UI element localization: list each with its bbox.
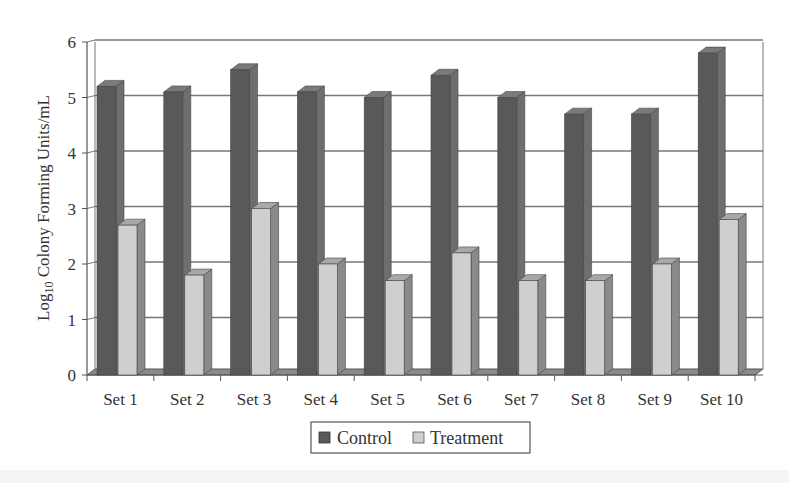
legend-swatch-treatment: [413, 432, 424, 443]
bar-control: [698, 53, 717, 375]
bar-control: [297, 92, 316, 375]
bar-control: [364, 98, 383, 376]
y-tick-label: 3: [68, 200, 77, 219]
bar-group: [498, 92, 546, 376]
bar-control: [631, 114, 650, 375]
y-axis: 0123456: [68, 33, 88, 385]
bar-control: [431, 75, 450, 375]
bar-treatment: [252, 209, 271, 376]
bar-group: [364, 92, 412, 376]
y-tick-label: 5: [68, 89, 77, 108]
bar-treatment: [385, 281, 404, 375]
bar-treatment: [318, 264, 337, 375]
bar-group: [631, 108, 679, 375]
bar-group: [431, 69, 479, 375]
bar-treatment: [519, 281, 538, 375]
bar-group: [698, 47, 746, 375]
y-tick-label: 4: [68, 144, 77, 163]
bar-group: [231, 64, 279, 375]
x-tick-label: Set 5: [370, 390, 404, 409]
bar-control: [97, 86, 116, 375]
bar-group: [164, 86, 212, 375]
x-tick-label: Set 1: [103, 390, 137, 409]
bar-control: [231, 70, 250, 375]
x-tick-label: Set 9: [638, 390, 672, 409]
x-tick-label: Set 8: [571, 390, 605, 409]
bar-treatment: [118, 225, 137, 375]
x-tick-label: Set 4: [304, 390, 339, 409]
legend-label-treatment: Treatment: [430, 428, 503, 448]
legend: Control Treatment: [311, 422, 530, 453]
bars: [97, 47, 746, 375]
bar-treatment: [452, 253, 471, 375]
y-tick-label: 6: [68, 33, 77, 52]
x-tick-label: Set 7: [504, 390, 539, 409]
x-tick-label: Set 3: [237, 390, 271, 409]
y-tick-label: 2: [68, 255, 77, 274]
bar-control: [498, 98, 517, 376]
bar-group: [97, 80, 145, 375]
x-tick-label: Set 10: [700, 390, 743, 409]
bar-control: [565, 114, 584, 375]
y-tick-label: 0: [68, 366, 77, 385]
bar-group: [565, 108, 613, 375]
bar-treatment: [185, 275, 204, 375]
bar-treatment: [586, 281, 605, 375]
x-tick-label: Set 6: [437, 390, 471, 409]
bar-treatment: [652, 264, 671, 375]
legend-swatch-control: [319, 432, 330, 443]
legend-label-control: Control: [337, 428, 392, 448]
x-axis: Set 1Set 2Set 3Set 4Set 5Set 6Set 7Set 8…: [87, 375, 763, 409]
bar-treatment: [719, 220, 738, 375]
y-axis-title: Log10 Colony Forming Units/mL: [34, 95, 56, 321]
bar-group: [297, 86, 345, 375]
y-tick-label: 1: [68, 311, 77, 330]
page-bottom-band: [0, 470, 789, 483]
x-tick-label: Set 2: [170, 390, 204, 409]
bar-control: [164, 92, 183, 375]
bar-chart: 0123456 Set 1Set 2Set 3Set 4Set 5Set 6Se…: [0, 0, 789, 470]
